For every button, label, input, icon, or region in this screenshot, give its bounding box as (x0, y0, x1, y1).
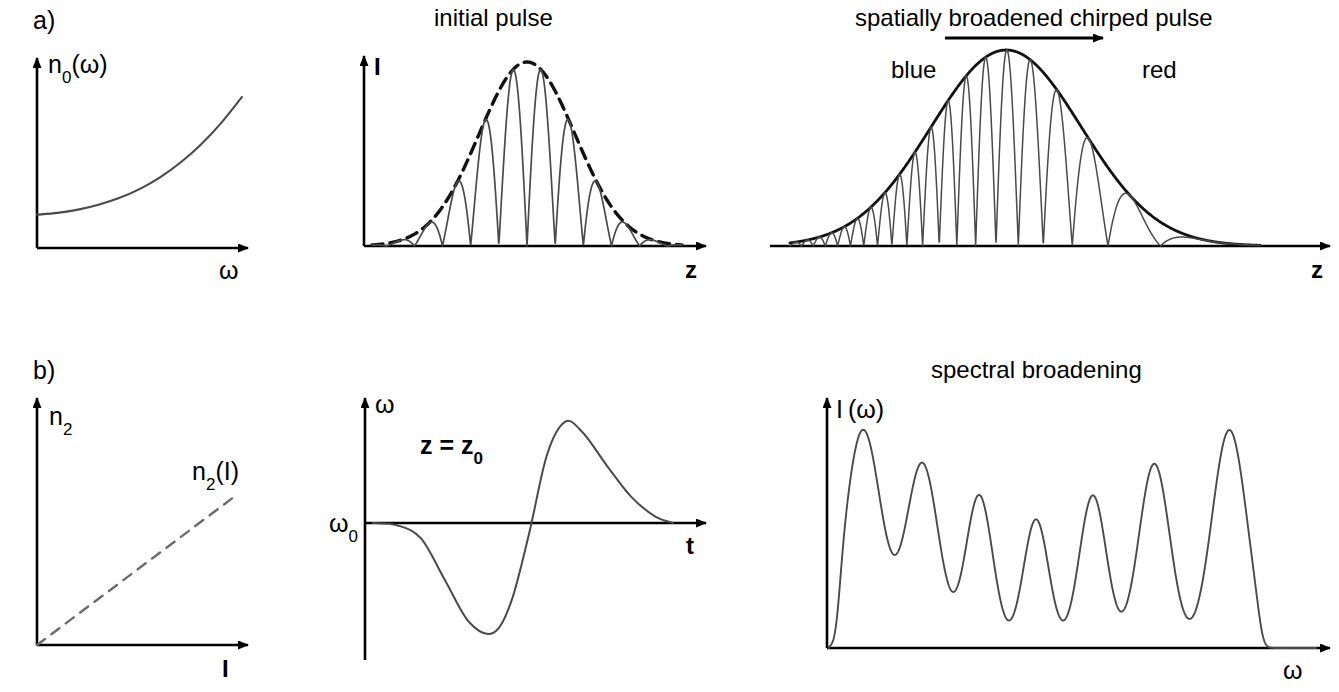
figure-root: a) b) n0(ω) ω initial pulse I z spatiall… (0, 0, 1339, 692)
nonlinear-index-curve-label-sub: 2 (206, 475, 215, 494)
nonlinear-index-y-axis-label-base: n (49, 402, 63, 430)
nonlinear-index-curve-label-suffix: (I) (215, 457, 239, 485)
spectrum-y-axis-label: I (ω) (836, 397, 884, 422)
initial-pulse-y-axis-label: I (374, 55, 381, 79)
axes-layer (37, 38, 1330, 660)
chirp-annotation-sub: 0 (474, 449, 483, 468)
dispersion-curve (37, 97, 242, 215)
chirp-y-axis-label: ω (375, 392, 395, 417)
chirp-y-axis-origin-label: ω0 (329, 511, 358, 541)
nonlinear-index-y-axis-label-sub: 2 (63, 420, 72, 439)
spectrum-title: spectral broadening (931, 358, 1142, 382)
dispersion-y-axis-label-base: n (48, 50, 62, 78)
nonlinear-index-curve (37, 496, 235, 645)
chirp-x-axis-label: t (686, 534, 694, 558)
chirp-curve (373, 421, 673, 634)
chirped-pulse-blue-label: blue (891, 58, 936, 82)
dispersion-y-axis-label-sub: 0 (62, 68, 71, 87)
panel-label-a: a) (33, 8, 55, 33)
chirp-y-axis-origin-label-base: ω (329, 509, 349, 537)
initial-pulse-carrier (372, 70, 682, 247)
chirped-pulse-envelope (790, 50, 1260, 245)
chirp-y-axis-origin-label-sub: 0 (349, 527, 358, 546)
nonlinear-index-curve-label: n2(I) (192, 459, 239, 489)
initial-pulse-x-axis-label: z (685, 258, 697, 282)
panel-label-b: b) (33, 358, 55, 383)
spectrum-x-axis-label: ω (1283, 658, 1303, 683)
chirped-pulse-title: spatially broadened chirped pulse (855, 6, 1213, 30)
initial-pulse-title: initial pulse (434, 6, 553, 30)
curves-layer (37, 50, 1316, 648)
nonlinear-index-x-axis-label: I (222, 657, 229, 681)
chirped-pulse-carrier (790, 50, 1260, 246)
dispersion-y-axis-label: n0(ω) (48, 52, 108, 82)
nonlinear-index-y-axis-label: n2 (49, 404, 72, 434)
chirp-annotation-base: z = z (420, 431, 474, 459)
initial-pulse-envelope (372, 62, 682, 245)
figure-plot-canvas (0, 0, 1339, 692)
dispersion-y-axis-label-suffix: (ω) (71, 50, 107, 78)
nonlinear-index-curve-label-base: n (192, 457, 206, 485)
chirped-pulse-x-axis-label: z (1311, 258, 1323, 282)
chirp-annotation: z = z0 (420, 433, 483, 463)
dispersion-x-axis-label: ω (219, 258, 239, 283)
spectrum-curve (829, 430, 1316, 648)
chirped-pulse-red-label: red (1142, 58, 1177, 82)
